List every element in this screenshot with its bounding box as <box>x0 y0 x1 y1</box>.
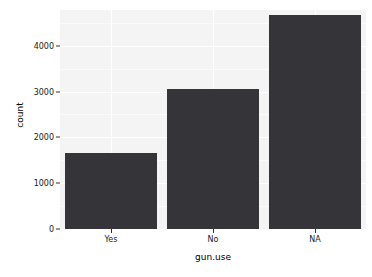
x-tick-label-na: NA <box>309 235 320 244</box>
x-axis-title-text: gun.use <box>195 252 231 262</box>
plot-panel <box>60 10 366 229</box>
x-tick-mark <box>315 229 316 233</box>
y-tick-label: 3000 <box>34 87 54 96</box>
y-tick-label: 1000 <box>34 179 54 188</box>
x-tick-label-yes: Yes <box>105 235 118 244</box>
x-tick-mark <box>213 229 214 233</box>
x-axis-ticks: YesNoNA <box>60 229 366 249</box>
y-tick-label: 4000 <box>34 41 54 50</box>
y-tick-label: 2000 <box>34 133 54 142</box>
bar-no <box>167 89 259 229</box>
y-tick-label: 0 <box>49 225 54 234</box>
bar-na <box>269 15 361 229</box>
bar-yes <box>65 153 157 229</box>
x-axis-title: gun.use <box>60 252 366 262</box>
bar-chart: count 01000200030004000 YesNoNA gun.use <box>0 0 372 277</box>
x-tick-label-no: No <box>208 235 219 244</box>
x-tick-mark <box>111 229 112 233</box>
y-axis-ticks: 01000200030004000 <box>24 0 60 277</box>
